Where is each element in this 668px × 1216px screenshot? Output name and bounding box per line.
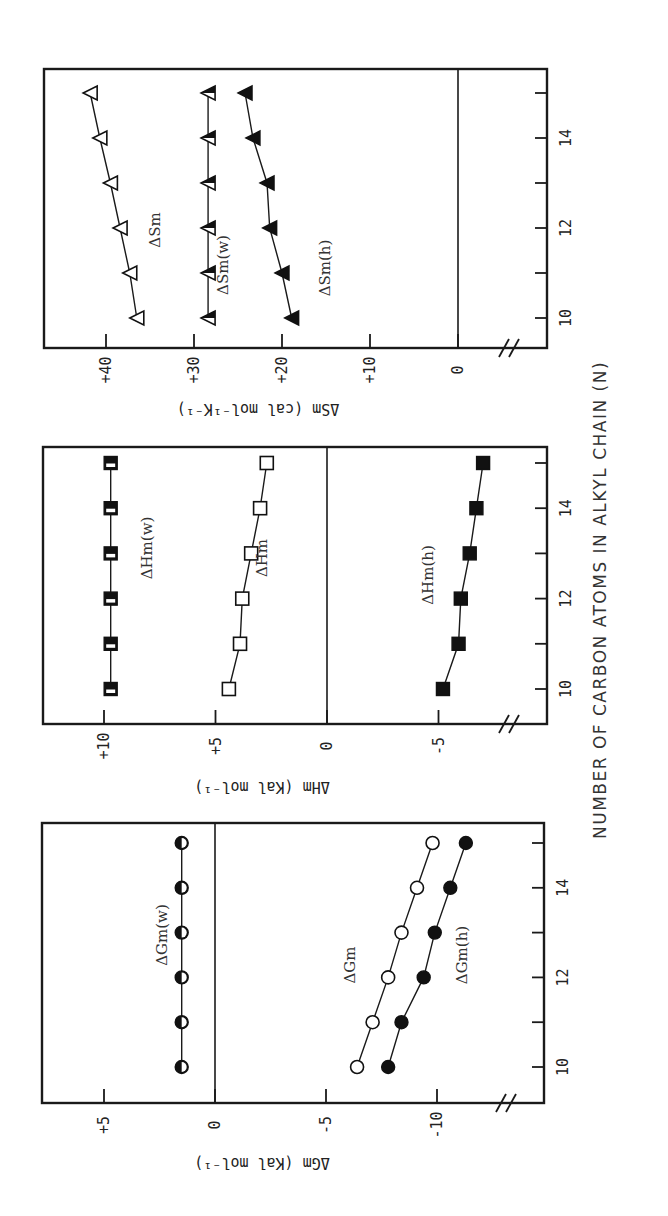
n-tick-label: 12 xyxy=(557,590,575,608)
data-point-marker xyxy=(104,457,117,470)
series-label: ΔGm xyxy=(341,946,359,983)
panel-entropy: +40+30+20+100101214ΔSm (cal mol⁻¹K⁻¹)ΔSm… xyxy=(44,69,575,418)
value-axis-title: ΔGm (Kal mol⁻¹) xyxy=(194,1154,329,1172)
data-point-marker xyxy=(234,637,247,650)
data-point-marker xyxy=(175,1016,188,1029)
n-tick-label: 14 xyxy=(557,129,575,147)
value-tick-label: +30 xyxy=(185,356,203,383)
series-label: ΔHm(h) xyxy=(419,545,437,605)
data-point-marker xyxy=(459,837,472,850)
data-point-marker xyxy=(454,592,467,605)
data-point-marker xyxy=(463,547,476,560)
series-sm: ΔSm xyxy=(83,86,164,325)
series-smw: ΔSm(w) xyxy=(201,86,232,325)
data-point-marker xyxy=(417,971,430,984)
data-point-marker xyxy=(351,1061,364,1074)
value-tick-label: 0 xyxy=(206,1120,224,1129)
n-tick-label: 14 xyxy=(557,499,575,517)
data-point-marker xyxy=(175,881,188,894)
n-tick-label: 10 xyxy=(557,680,575,698)
data-point-marker xyxy=(436,683,449,696)
data-point-marker xyxy=(246,131,260,145)
value-tick-label: -5 xyxy=(430,737,448,755)
series-line xyxy=(357,843,432,1067)
data-point-marker xyxy=(83,86,97,100)
value-tick-label: +40 xyxy=(97,356,115,383)
data-point-marker xyxy=(238,86,252,100)
series-label: ΔHm(w) xyxy=(138,517,156,580)
series-label: ΔSm xyxy=(146,212,164,247)
data-point-marker xyxy=(395,1016,408,1029)
thermodynamics-figure: +40+30+20+100101214ΔSm (cal mol⁻¹K⁻¹)ΔSm… xyxy=(0,0,668,1216)
plot-frame xyxy=(44,69,547,348)
data-point-marker xyxy=(444,881,457,894)
data-point-marker xyxy=(175,971,188,984)
data-point-marker xyxy=(477,457,490,470)
data-point-marker xyxy=(175,837,188,850)
series-gm: ΔGm xyxy=(341,837,439,1074)
value-tick-label: +20 xyxy=(273,356,291,383)
data-point-marker xyxy=(426,837,439,850)
n-tick-label: 10 xyxy=(557,309,575,327)
data-point-marker xyxy=(104,502,117,515)
data-point-marker xyxy=(470,502,483,515)
n-tick-label: 10 xyxy=(554,1058,572,1076)
series-label: ΔGm(h) xyxy=(453,926,471,984)
series-label: ΔSm(w) xyxy=(214,235,232,295)
data-point-marker xyxy=(104,547,117,560)
series-label: ΔHm xyxy=(253,539,271,577)
value-tick-label: -10 xyxy=(428,1111,446,1138)
series-smh: ΔSm(h) xyxy=(238,86,334,325)
value-tick-label: +10 xyxy=(361,356,379,383)
data-point-marker xyxy=(236,592,249,605)
n-tick-label: 12 xyxy=(554,968,572,986)
plot-frame xyxy=(43,447,547,724)
data-point-marker xyxy=(93,131,107,145)
data-point-marker xyxy=(382,971,395,984)
data-point-marker xyxy=(175,926,188,939)
value-tick-label: 0 xyxy=(318,741,336,750)
data-point-marker xyxy=(103,176,117,190)
value-tick-label: +10 xyxy=(95,732,113,759)
data-point-marker xyxy=(123,266,137,280)
series-hmw: ΔHm(w) xyxy=(104,457,156,696)
n-tick-label: 12 xyxy=(557,219,575,237)
data-point-marker xyxy=(104,637,117,650)
shared-x-axis-title: NUMBER OF CARBON ATOMS IN ALKYL CHAIN (N… xyxy=(590,361,610,839)
data-point-marker xyxy=(382,1061,395,1074)
panel-gibbs-energy: +50-5-10101214ΔGm (Kal mol⁻¹)ΔGm(w)ΔGmΔG… xyxy=(42,823,572,1172)
data-point-marker xyxy=(411,881,424,894)
data-point-marker xyxy=(275,266,289,280)
data-point-marker xyxy=(254,502,267,515)
data-point-marker xyxy=(175,1061,188,1074)
value-axis-title: ΔSm (cal mol⁻¹K⁻¹) xyxy=(177,400,340,418)
panel-enthalpy: +10+50-5101214ΔHm (Kal mol⁻¹)ΔHm(w)ΔHmΔH… xyxy=(43,447,575,796)
value-axis-title: ΔHm (Kal mol⁻¹) xyxy=(194,778,329,796)
data-point-marker xyxy=(285,311,299,325)
series-gmw: ΔGm(w) xyxy=(153,837,188,1074)
value-tick-label: +5 xyxy=(207,737,225,755)
value-tick-label: 0 xyxy=(449,365,467,374)
series-hmh: ΔHm(h) xyxy=(419,457,490,696)
data-point-marker xyxy=(113,221,127,235)
value-tick-label: -5 xyxy=(317,1116,335,1134)
data-point-marker xyxy=(130,311,144,325)
series-hm: ΔHm xyxy=(222,457,273,696)
data-point-marker xyxy=(428,926,441,939)
data-point-marker xyxy=(452,637,465,650)
series-line xyxy=(90,93,137,318)
data-point-marker xyxy=(104,683,117,696)
data-point-marker xyxy=(366,1016,379,1029)
data-point-marker xyxy=(395,926,408,939)
series-label: ΔSm(h) xyxy=(316,240,334,297)
value-tick-label: +5 xyxy=(95,1116,113,1134)
n-tick-label: 14 xyxy=(554,879,572,897)
data-point-marker xyxy=(222,683,235,696)
data-point-marker xyxy=(104,592,117,605)
series-line xyxy=(245,93,292,318)
data-point-marker xyxy=(260,457,273,470)
series-line xyxy=(443,463,483,689)
series-label: ΔGm(w) xyxy=(153,904,171,966)
